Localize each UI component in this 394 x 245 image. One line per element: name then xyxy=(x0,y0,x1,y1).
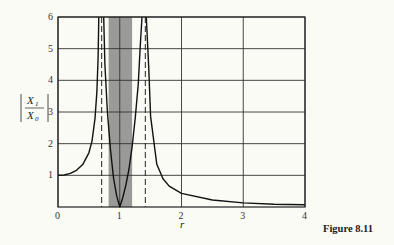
svg-text:1: 1 xyxy=(35,100,39,108)
svg-text:4: 4 xyxy=(302,210,307,221)
svg-text:5: 5 xyxy=(48,43,53,54)
svg-text:1: 1 xyxy=(48,169,53,180)
svg-text:3: 3 xyxy=(240,210,245,221)
svg-text:0: 0 xyxy=(35,115,39,123)
svg-text:6: 6 xyxy=(48,11,53,22)
svg-text:1: 1 xyxy=(117,210,122,221)
svg-text:4: 4 xyxy=(48,74,53,85)
x-axis-label: r xyxy=(180,218,185,230)
svg-text:X: X xyxy=(26,94,35,106)
svg-text:0: 0 xyxy=(55,210,60,221)
figure-caption: Figure 8.11 xyxy=(323,223,373,234)
y-tick-labels: 123456 xyxy=(48,11,53,180)
y-axis-label: X 1 X 0 xyxy=(21,94,48,123)
svg-text:X: X xyxy=(26,109,35,121)
svg-text:3: 3 xyxy=(48,106,53,117)
chart: 01234 123456 r X 1 X 0 xyxy=(0,0,394,245)
svg-text:2: 2 xyxy=(48,138,53,149)
